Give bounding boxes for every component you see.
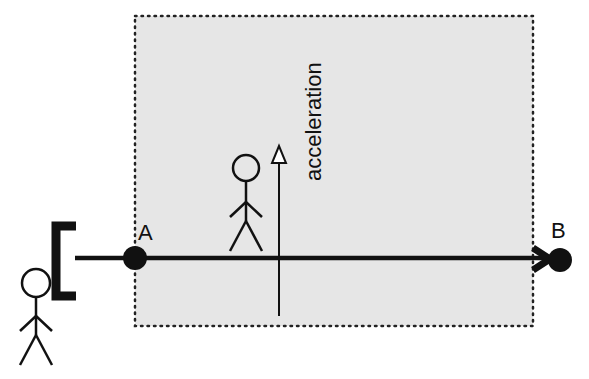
- point-a-label: A: [138, 220, 153, 246]
- acceleration-label: acceleration: [301, 62, 327, 181]
- stick-figure-outside-icon: [20, 269, 52, 365]
- bracket-icon: [56, 226, 76, 296]
- point-a-dot: [123, 246, 147, 270]
- point-b-label: B: [551, 218, 566, 244]
- reference-frame: [135, 16, 533, 326]
- diagram-canvas: [0, 0, 589, 379]
